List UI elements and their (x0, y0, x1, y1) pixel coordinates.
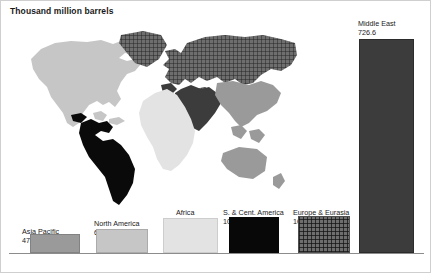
bar-label-middle-east: Middle East 726.6 (358, 19, 396, 38)
bar-south-central-america[interactable] (229, 217, 279, 253)
bar-north-america[interactable] (96, 229, 148, 253)
bar-value-middle-east: 726.6 (358, 28, 396, 37)
bar-asia-pacific[interactable] (30, 234, 80, 253)
bar-category-south-central-america: S. & Cent. America (223, 208, 284, 217)
bar-category-north-america: North America (94, 219, 140, 228)
x-axis-baseline (9, 253, 424, 254)
bar-category-middle-east: Middle East (358, 19, 396, 28)
bar-europe-eurasia[interactable] (298, 216, 350, 253)
chart-figure: Thousand million barrels (0, 0, 431, 273)
bar-category-africa: Africa (176, 208, 194, 217)
bar-africa[interactable] (163, 218, 218, 253)
bar-chart-plot-area: Asia Pacific 47.7 North America 63.6 Afr… (1, 1, 431, 273)
bar-middle-east[interactable] (359, 39, 414, 253)
